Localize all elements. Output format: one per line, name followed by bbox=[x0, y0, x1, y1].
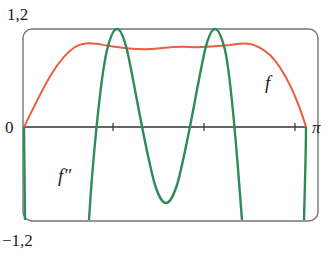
f-curve bbox=[24, 43, 306, 127]
y-min-label: −1,2 bbox=[2, 232, 33, 249]
f-label: f bbox=[265, 73, 270, 92]
plot-area bbox=[0, 0, 328, 255]
f-double-prime-label: f″ bbox=[58, 166, 71, 185]
y-zero-label: 0 bbox=[5, 119, 14, 136]
x-pi-label: π bbox=[312, 119, 321, 136]
y-max-label: 1,2 bbox=[7, 6, 28, 23]
f-double-prime-curve bbox=[24, 29, 306, 220]
